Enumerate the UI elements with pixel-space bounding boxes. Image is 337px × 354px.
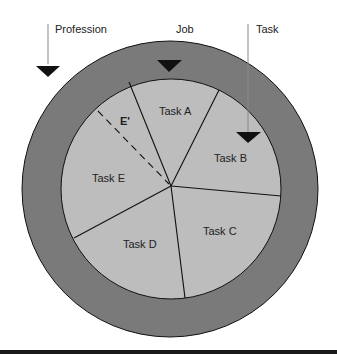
task-c-label: Task C — [203, 225, 237, 237]
job-label: Job — [176, 23, 194, 35]
task-label: Task — [256, 23, 279, 35]
bottom-rule — [0, 350, 337, 354]
task-d-label: Task D — [123, 238, 157, 250]
profession-label: Profession — [55, 23, 107, 35]
subtask-e-prime-label: E' — [120, 115, 130, 127]
task-a-label: Task A — [159, 105, 192, 117]
task-b-label: Task B — [214, 152, 247, 164]
task-e-label: Task E — [92, 172, 125, 184]
profession-job-task-diagram: Profession Job Task Task A Task B Task C… — [0, 0, 337, 354]
profession-arrow-icon — [36, 66, 60, 77]
